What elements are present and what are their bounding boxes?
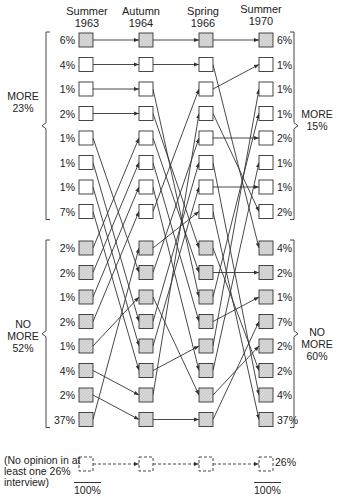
state-box — [79, 315, 93, 329]
state-box — [79, 180, 93, 194]
transition-line — [153, 114, 199, 396]
right-total: 100% — [254, 482, 281, 496]
state-box — [259, 156, 273, 170]
group-label-line: NO — [298, 326, 336, 338]
left-percent-label: 1% — [45, 83, 75, 95]
left-percent-label: 1% — [45, 181, 75, 193]
left-percent-label: 1% — [45, 157, 75, 169]
state-box — [139, 241, 153, 255]
state-box — [259, 290, 273, 304]
right-percent-label: 1% — [277, 83, 292, 95]
state-box — [199, 33, 213, 47]
transition-line — [93, 248, 139, 420]
transition-line — [93, 212, 139, 371]
left-percent-label: 2% — [45, 108, 75, 120]
left-no-more-group-label: NO MORE 52% — [4, 318, 42, 354]
state-box — [79, 205, 93, 219]
header-year: 1966 — [175, 17, 231, 29]
transition-line — [93, 371, 139, 396]
left-percent-label: 2% — [45, 389, 75, 401]
no-opinion-note: (No opinion in at least one 26% intervie… — [4, 455, 84, 488]
state-box — [259, 58, 273, 72]
state-box — [139, 290, 153, 304]
column-header-spring-1966: Spring 1966 — [175, 5, 231, 29]
state-box — [259, 205, 273, 219]
transition-line — [93, 163, 139, 273]
left-percent-label: 2% — [45, 242, 75, 254]
state-box — [259, 315, 273, 329]
group-label-line: MORE — [298, 108, 336, 120]
left-more-group-label: MORE 23% — [4, 90, 42, 114]
state-box — [199, 82, 213, 96]
header-year: 1970 — [233, 15, 289, 27]
transition-line — [213, 322, 259, 420]
column-header-summer-1963: Summer 1963 — [59, 5, 115, 29]
state-box — [79, 33, 93, 47]
transition-line — [93, 138, 139, 248]
state-box — [199, 241, 213, 255]
no-opinion-box — [199, 457, 213, 471]
transition-line — [153, 114, 199, 249]
right-percent-label: 2% — [277, 206, 292, 218]
connection-lines — [93, 40, 259, 464]
state-box — [199, 58, 213, 72]
state-box — [79, 290, 93, 304]
no-opinion-line: interview) — [4, 477, 84, 488]
left-percent-label: 2% — [45, 267, 75, 279]
no-opinion-box — [139, 457, 153, 471]
left-percent-label: 7% — [45, 206, 75, 218]
right-percent-label: 2% — [277, 365, 292, 377]
right-percent-label: 6% — [277, 34, 292, 46]
state-box — [139, 388, 153, 402]
state-box — [139, 107, 153, 121]
left-percent-label: 4% — [45, 59, 75, 71]
state-box — [139, 315, 153, 329]
transition-line — [93, 187, 139, 297]
no-opinion-box — [259, 457, 273, 471]
state-box — [259, 33, 273, 47]
left-total: 100% — [74, 482, 101, 496]
header-year: 1963 — [59, 17, 115, 29]
left-percent-label: 4% — [45, 365, 75, 377]
group-label-line: 60% — [298, 350, 336, 362]
state-box — [79, 131, 93, 145]
state-box — [79, 156, 93, 170]
state-box — [79, 58, 93, 72]
right-percent-label: 37% — [277, 414, 298, 426]
group-label-line: 52% — [4, 342, 42, 354]
state-box — [199, 364, 213, 378]
no-opinion-right-value: 26% — [275, 456, 296, 468]
right-percent-label: 1% — [277, 59, 292, 71]
left-percent-label: 2% — [45, 316, 75, 328]
state-box — [139, 58, 153, 72]
state-box — [139, 131, 153, 145]
right-percent-label: 4% — [277, 389, 292, 401]
header-season: Autumn — [113, 5, 169, 17]
right-percent-label: 1% — [277, 108, 292, 120]
state-box — [259, 388, 273, 402]
state-box — [199, 388, 213, 402]
header-year: 1964 — [113, 17, 169, 29]
state-box — [199, 205, 213, 219]
right-percent-label: 4% — [277, 242, 292, 254]
right-percent-label: 1% — [277, 181, 292, 193]
column-header-autumn-1964: Autumn 1964 — [113, 5, 169, 29]
state-box — [139, 266, 153, 280]
state-box — [79, 388, 93, 402]
state-box — [139, 180, 153, 194]
state-box — [259, 266, 273, 280]
transition-line — [153, 346, 199, 371]
state-box — [259, 339, 273, 353]
state-box — [79, 82, 93, 96]
right-percent-label: 7% — [277, 316, 292, 328]
state-box — [79, 413, 93, 427]
state-box — [139, 339, 153, 353]
state-box — [139, 156, 153, 170]
state-box — [79, 364, 93, 378]
state-box — [79, 266, 93, 280]
state-box — [259, 241, 273, 255]
transition-line — [213, 65, 259, 249]
group-label-line: 15% — [298, 120, 336, 132]
header-season: Spring — [175, 5, 231, 17]
transition-line — [153, 297, 199, 395]
